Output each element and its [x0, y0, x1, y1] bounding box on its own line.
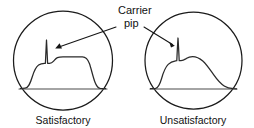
annotation-carrier-line2: pip: [124, 17, 139, 29]
annotation-carrier-line1: Carrier: [118, 4, 152, 16]
scope-circle-unsatisfactory: [145, 12, 242, 109]
scope-circle-satisfactory: [14, 11, 113, 110]
figure-canvas: Carrier pip Satisfactory Unsatisfactory: [0, 0, 254, 128]
caption-satisfactory: Satisfactory: [36, 114, 92, 126]
panel-unsatisfactory: [145, 12, 242, 109]
panel-satisfactory: [14, 11, 113, 110]
caption-unsatisfactory: Unsatisfactory: [160, 114, 227, 126]
oscilloscope-comparison-figure: Carrier pip Satisfactory Unsatisfactory: [0, 0, 254, 128]
